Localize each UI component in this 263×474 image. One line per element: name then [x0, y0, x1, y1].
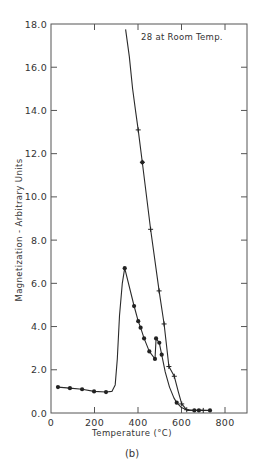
data-curves	[58, 29, 210, 410]
y-tick-label: 8.0	[31, 235, 47, 246]
cooling-curve	[126, 29, 204, 410]
data-point-dot	[132, 304, 136, 308]
data-point-dot	[68, 386, 72, 390]
data-point-dot	[92, 389, 96, 393]
y-tick-label: 4.0	[31, 321, 47, 332]
annotation-label: 28 at Room Temp.	[141, 32, 223, 42]
data-point-dot	[136, 319, 140, 323]
x-axis-title: Temperature (°C)	[91, 428, 172, 438]
y-tick-label: 18.0	[25, 19, 47, 30]
data-point-dot	[160, 353, 164, 357]
data-point-dot	[56, 385, 60, 389]
data-point-dot	[175, 401, 179, 405]
x-tick-label: 200	[85, 417, 104, 428]
data-point-dot	[197, 408, 201, 412]
data-point-dot	[123, 266, 127, 270]
y-tick-label: 0.0	[31, 408, 47, 419]
data-point-dot	[142, 336, 146, 340]
data-point-dot	[140, 160, 144, 164]
x-tick-label: 0	[48, 417, 54, 428]
data-markers	[56, 127, 212, 413]
data-point-dot	[153, 357, 157, 361]
data-point-dot	[147, 349, 151, 353]
x-tick-label: 400	[128, 417, 147, 428]
data-point-dot	[80, 387, 84, 391]
data-point-dot	[139, 326, 143, 330]
data-point-dot	[192, 408, 196, 412]
y-axis-title: Magnetization - Arbitrary Units	[14, 158, 24, 301]
x-tick-label: 600	[172, 417, 191, 428]
data-point-dot	[154, 336, 158, 340]
data-point-dot	[208, 408, 212, 412]
data-point-dot	[104, 390, 108, 394]
tick-labels: 02004006008000.02.04.06.08.010.012.014.0…	[25, 19, 235, 429]
y-tick-label: 14.0	[25, 105, 47, 116]
figure-caption: (b)	[125, 448, 139, 459]
y-tick-label: 2.0	[31, 364, 47, 375]
magnetization-chart: 02004006008000.02.04.06.08.010.012.014.0…	[0, 0, 263, 474]
y-tick-label: 6.0	[31, 278, 47, 289]
y-tick-label: 12.0	[25, 148, 47, 159]
y-tick-label: 16.0	[25, 62, 47, 73]
data-point-dot	[157, 341, 161, 345]
x-tick-label: 800	[215, 417, 234, 428]
y-tick-label: 10.0	[25, 191, 47, 202]
